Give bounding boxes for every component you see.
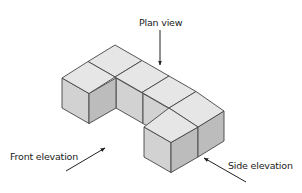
side-elevation-label: Side elevation xyxy=(228,160,293,171)
front-elevation-label: Front elevation xyxy=(10,151,78,162)
plan-view-label: Plan view xyxy=(139,17,182,28)
